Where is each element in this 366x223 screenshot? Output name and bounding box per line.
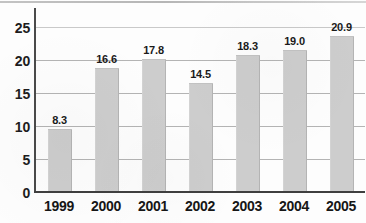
- bar-2005[interactable]: [330, 36, 354, 191]
- bar-2002[interactable]: [189, 83, 213, 191]
- bar-value-2005: 20.9: [319, 22, 365, 33]
- x-tick-label-2003: 2003: [220, 199, 274, 213]
- bar-2003[interactable]: [236, 55, 260, 191]
- bar-chart: 25 20 15 10 5 0 8.3 16.6 17.8: [0, 0, 366, 223]
- y-tick-label-20: 20: [2, 54, 30, 68]
- y-tick-label-0: 0: [2, 186, 30, 200]
- y-tick-label-10: 10: [2, 120, 30, 134]
- bar-value-2000: 16.6: [84, 54, 130, 65]
- bars-layer: 8.3 16.6 17.8 14.5 18.3 19.0: [36, 8, 365, 191]
- bar-slot-1999: 8.3: [36, 8, 83, 191]
- bar-slot-2000: 16.6: [83, 8, 130, 191]
- bar-value-2001: 17.8: [131, 45, 177, 56]
- bar-2004[interactable]: [283, 50, 307, 191]
- x-tick-label-2002: 2002: [173, 199, 227, 213]
- x-tick-label-2001: 2001: [126, 199, 180, 213]
- y-axis-tick-labels: 25 20 15 10 5 0: [0, 8, 30, 193]
- bar-value-2003: 18.3: [225, 41, 271, 52]
- bar-value-1999: 8.3: [37, 115, 83, 126]
- bar-slot-2003: 18.3: [224, 8, 271, 191]
- x-tick-label-2004: 2004: [267, 199, 321, 213]
- bar-value-2002: 14.5: [178, 69, 224, 80]
- x-tick-label-2000: 2000: [79, 199, 133, 213]
- bar-slot-2004: 19.0: [271, 8, 318, 191]
- bar-2001[interactable]: [142, 59, 166, 191]
- y-tick-label-15: 15: [2, 87, 30, 101]
- scan-artifact-band: [0, 1, 366, 3]
- plot-area: 8.3 16.6 17.8 14.5 18.3 19.0: [34, 8, 365, 193]
- bar-slot-2001: 17.8: [130, 8, 177, 191]
- bar-slot-2005: 20.9: [318, 8, 365, 191]
- x-tick-label-2005: 2005: [314, 199, 366, 213]
- x-axis-tick-labels: 1999 2000 2001 2002 2003 2004 2005: [36, 199, 365, 219]
- bar-1999[interactable]: [48, 129, 72, 191]
- bar-value-2004: 19.0: [272, 36, 318, 47]
- bar-2000[interactable]: [95, 68, 119, 191]
- bar-slot-2002: 14.5: [177, 8, 224, 191]
- x-axis-line: [34, 191, 365, 193]
- y-tick-label-5: 5: [2, 153, 30, 167]
- y-tick-label-25: 25: [2, 21, 30, 35]
- x-tick-label-1999: 1999: [32, 199, 86, 213]
